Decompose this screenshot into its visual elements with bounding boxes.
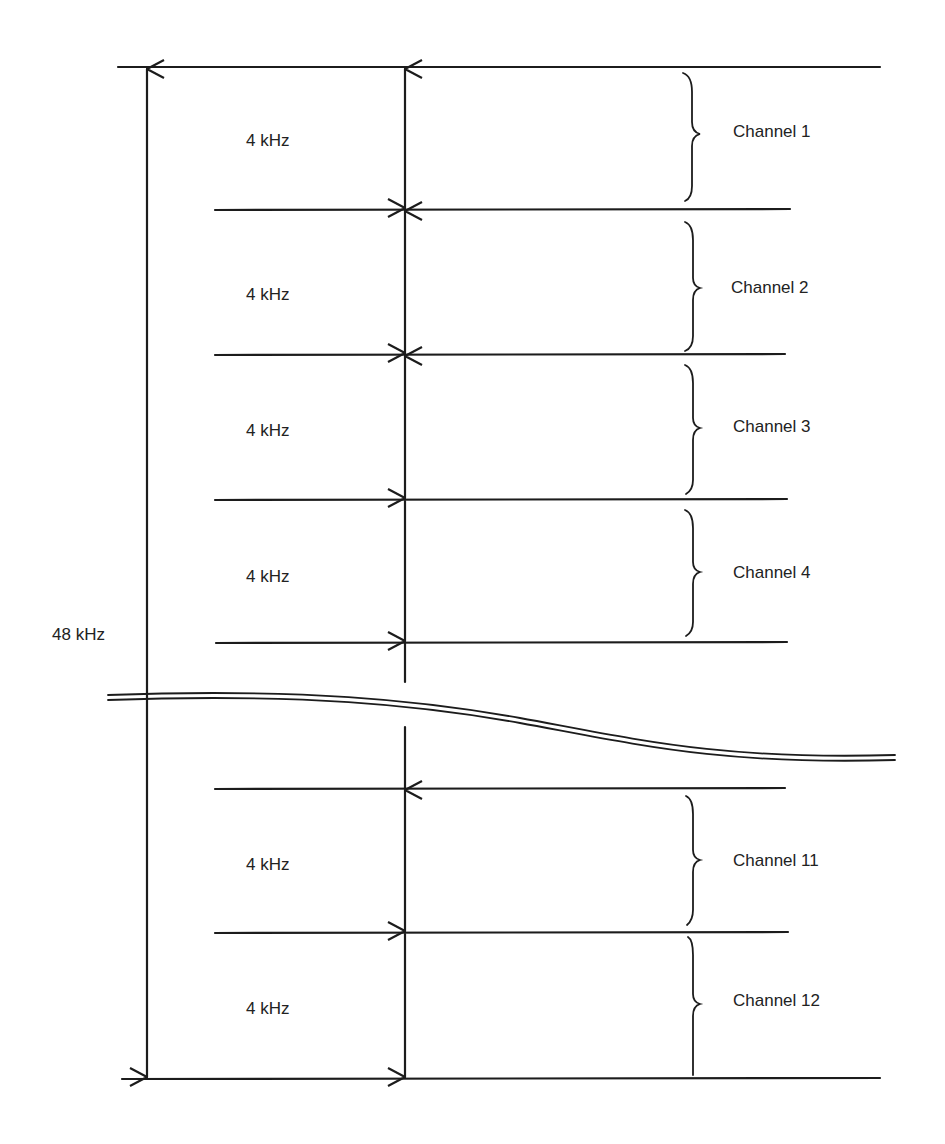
channel-2-label: Channel 2 (731, 278, 809, 297)
brace-channel-12 (688, 937, 700, 1075)
channel-1-bandwidth-label: 4 kHz (246, 131, 289, 150)
channel-4-label: Channel 4 (733, 563, 811, 582)
fdm-channel-diagram: 4 kHz 4 kHz 4 kHz 4 kHz 4 kHz 4 kHz 48 k… (0, 0, 945, 1144)
channel-3-bandwidth-label: 4 kHz (246, 421, 289, 440)
bottom-boundary-line (122, 1078, 880, 1079)
channel-11-label: Channel 11 (733, 851, 819, 870)
channel-braces (683, 73, 700, 1075)
brace-channel-3 (685, 365, 700, 494)
boundary-line-11-12 (215, 932, 788, 933)
channel-3-label: Channel 3 (733, 417, 811, 436)
boundary-line-2-3 (215, 354, 785, 355)
boundary-line-11-top (215, 788, 785, 789)
boundary-line-3-4 (215, 499, 787, 500)
channel-11-bandwidth-label: 4 kHz (246, 855, 289, 874)
channel-2-bandwidth-label: 4 kHz (246, 285, 289, 304)
brace-channel-11 (686, 796, 700, 925)
bandwidth-labels: 4 kHz 4 kHz 4 kHz 4 kHz 4 kHz 4 kHz 48 k… (52, 131, 289, 1018)
channel-12-label: Channel 12 (733, 991, 820, 1010)
channel-name-labels: Channel 1 Channel 2 Channel 3 Channel 4 … (731, 122, 820, 1010)
channel-12-bandwidth-label: 4 kHz (246, 999, 289, 1018)
boundary-line-1-2 (215, 209, 790, 210)
total-bandwidth-label: 48 kHz (52, 625, 105, 644)
channel-1-label: Channel 1 (733, 122, 811, 141)
break-line (108, 693, 895, 761)
channel-4-bandwidth-label: 4 kHz (246, 567, 289, 586)
brace-channel-2 (685, 222, 700, 351)
brace-channel-4 (685, 510, 700, 636)
boundary-line-4-bottom (216, 642, 787, 643)
brace-channel-1 (683, 73, 700, 201)
